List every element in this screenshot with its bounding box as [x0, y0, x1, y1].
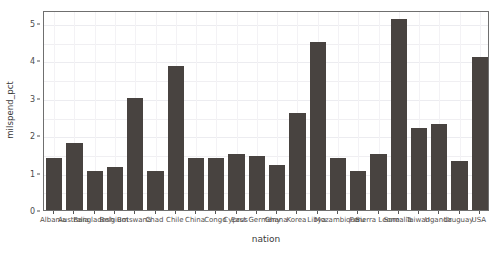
bar	[66, 143, 82, 210]
x-axis-tick-mark	[479, 211, 480, 214]
bar	[87, 171, 103, 210]
x-axis-tick-mark	[73, 211, 74, 214]
y-axis-tick-label: 3	[30, 94, 35, 103]
y-axis-tick-label: 1	[30, 169, 35, 178]
x-axis-tick-mark	[459, 211, 460, 214]
x-axis-tick-mark	[195, 211, 196, 214]
x-axis-tick-mark	[175, 211, 176, 214]
y-axis-title-text: milspend_pct	[5, 81, 15, 139]
x-axis-tick-mark	[378, 211, 379, 214]
bar	[330, 158, 346, 210]
bar	[249, 156, 265, 210]
x-axis-tick-label: Ghana	[265, 215, 288, 225]
x-axis-tick-mark	[296, 211, 297, 214]
x-axis-tick-mark	[438, 211, 439, 214]
bar	[208, 158, 224, 210]
y-axis-tick-mark	[37, 211, 40, 212]
bar	[188, 158, 204, 210]
x-axis-tick-label: Uruguay	[444, 215, 474, 225]
x-axis-tick-label: USA	[472, 215, 487, 225]
x-axis-tick-label: Korea	[286, 215, 306, 225]
y-axis-tick-mark	[37, 98, 40, 99]
x-axis-tick-label: China	[185, 215, 205, 225]
y-axis-tick-mark	[37, 61, 40, 62]
y-axis-tick-label: 4	[30, 57, 35, 66]
bar	[127, 98, 143, 210]
bar	[472, 57, 488, 210]
bar	[269, 165, 285, 210]
x-axis-tick-mark	[155, 211, 156, 214]
y-axis-title: milspend_pct	[2, 0, 18, 220]
bar-chart-figure: milspend_pct 012345 AlbaniaAustraliaBang…	[0, 0, 494, 261]
x-axis-tick-label: Chad	[145, 215, 163, 225]
bar	[289, 113, 305, 210]
x-axis-title: nation	[43, 234, 489, 244]
x-axis-tick-label: Chile	[166, 215, 184, 225]
x-axis-tick-mark	[114, 211, 115, 214]
bar	[228, 154, 244, 210]
x-axis-tick-mark	[398, 211, 399, 214]
bar	[451, 161, 467, 210]
bar	[350, 171, 366, 210]
x-axis-tick-mark	[215, 211, 216, 214]
plot-panel	[43, 11, 489, 211]
bar	[431, 124, 447, 210]
bar	[310, 42, 326, 210]
x-axis-tick-mark	[94, 211, 95, 214]
bar	[107, 167, 123, 210]
y-axis-tick-mark	[37, 24, 40, 25]
bar	[46, 158, 62, 210]
bar-series	[44, 12, 488, 210]
bar	[370, 154, 386, 210]
x-axis-tick-mark	[134, 211, 135, 214]
x-axis-tick-mark	[357, 211, 358, 214]
bar	[168, 66, 184, 210]
y-axis-tick-mark	[37, 173, 40, 174]
x-axis-tick-mark	[276, 211, 277, 214]
y-axis-tick-label: 5	[30, 20, 35, 29]
y-axis-tick-label: 0	[30, 207, 35, 216]
x-axis-tick-mark	[418, 211, 419, 214]
y-axis-tick-mark	[37, 136, 40, 137]
x-axis-tick-labels: AlbaniaAustraliaBangladeshBelgiumBotswan…	[43, 215, 489, 231]
x-axis-tick-mark	[256, 211, 257, 214]
bar	[411, 128, 427, 210]
y-axis-ticks: 012345	[18, 10, 40, 215]
bar	[391, 19, 407, 210]
x-axis-tick-mark	[53, 211, 54, 214]
y-axis-tick-label: 2	[30, 132, 35, 141]
x-axis-tick-mark	[317, 211, 318, 214]
bar	[147, 171, 163, 210]
x-axis-tick-mark	[236, 211, 237, 214]
x-axis-tick-mark	[337, 211, 338, 214]
